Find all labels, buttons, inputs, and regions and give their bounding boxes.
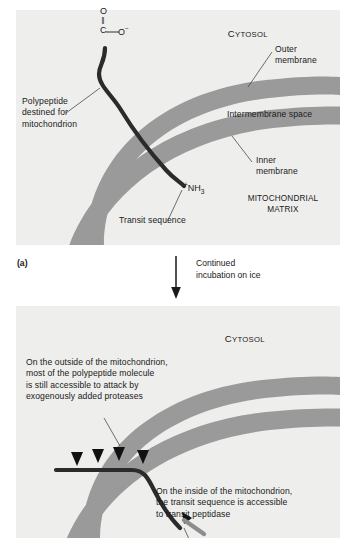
polypeptide-label: Polypeptide destined for mitochondrion — [22, 96, 77, 130]
inside-annotation: On the inside of the mitochondrion, the … — [156, 486, 292, 520]
mitochondrial-matrix-label: MITOCHONDRIAL MATRIX — [237, 193, 329, 215]
carboxylate-oxygen-label: O− — [118, 25, 129, 37]
cytosol-label-panel-a: CYTOSOL — [217, 17, 268, 52]
down-arrow-icon — [166, 254, 190, 302]
step-caption: Continued incubation on ice — [196, 258, 261, 281]
intermembrane-space-label: Intermembrane space — [227, 109, 312, 120]
protease-arrowhead-icon — [92, 449, 104, 463]
amino-count: 3 — [201, 188, 205, 195]
outer-membrane-label: Outer membrane — [275, 44, 317, 67]
double-bond-glyph: || — [102, 15, 104, 24]
panel-a-diagram: O || C O− +NH3 CYTOSOL Outer membrane In… — [16, 10, 340, 245]
carboxylate-charge: − — [125, 25, 129, 32]
transit-peptidase-icon — [184, 520, 204, 534]
transit-sequence-label: Transit sequence — [119, 215, 186, 226]
panel-b-diagram: CYTOSOL On the outside of the mitochondr… — [16, 306, 340, 538]
protease-arrowhead-icon — [71, 452, 83, 466]
outside-annotation: On the outside of the mitochondrion, mos… — [26, 357, 168, 403]
alpha-carbon-label: C — [100, 25, 107, 35]
inner-membrane-label: Inner membrane — [256, 155, 298, 178]
amino-terminus-label: +NH3 — [184, 181, 205, 195]
outside-annotation-leader-line — [104, 418, 120, 446]
inner-membrane-leader-line — [232, 136, 252, 162]
cytosol-label-panel-b: CYTOSOL — [214, 322, 265, 357]
figure-panel-label: (a) — [17, 258, 28, 268]
inside-annotation-leader-line — [184, 528, 194, 538]
